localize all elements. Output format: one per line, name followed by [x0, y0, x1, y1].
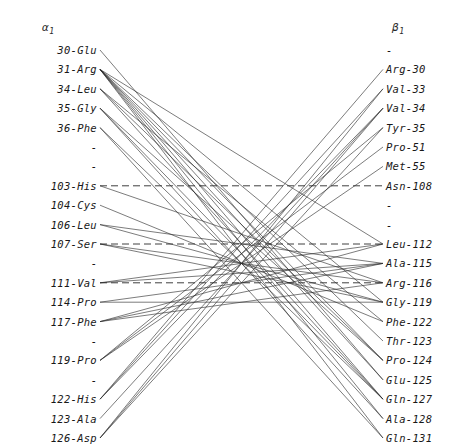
contact-line — [100, 89, 383, 399]
contact-line — [100, 205, 383, 321]
left-residue-label: 103-His — [0, 181, 97, 191]
contact-line — [100, 128, 383, 438]
left-residue-label: 36-Phe — [0, 123, 97, 133]
contact-line — [100, 128, 383, 400]
contact-line — [100, 263, 383, 302]
contact-line — [100, 89, 383, 438]
contact-line — [100, 69, 383, 341]
left-residue-label: 106-Leu — [0, 220, 97, 230]
right-column-header: β1 — [392, 21, 404, 36]
left-residue-label: 30-Glu — [0, 45, 97, 55]
left-residue-placeholder: - — [0, 336, 97, 346]
contact-line — [100, 263, 383, 282]
right-residue-label: Pro-51 — [386, 142, 426, 152]
contact-line — [100, 69, 383, 379]
contact-line — [100, 244, 383, 283]
right-residue-label: Arg-30 — [386, 64, 426, 74]
left-residue-label: 111-Val — [0, 278, 97, 288]
left-residue-label: 126-Asp — [0, 433, 97, 443]
right-residue-label: Gln-131 — [386, 433, 432, 443]
left-residue-label: 34-Leu — [0, 84, 97, 94]
left-residue-label: 122-His — [0, 394, 97, 404]
right-residue-label: Glu-125 — [386, 375, 432, 385]
left-residue-label: 117-Phe — [0, 317, 97, 327]
left-residue-label: 114-Pro — [0, 297, 97, 307]
contact-line — [100, 69, 383, 360]
right-residue-label: Val-34 — [386, 103, 426, 113]
contact-line — [100, 69, 383, 302]
left-residue-label: 35-Gly — [0, 103, 97, 113]
contact-line — [100, 69, 383, 438]
left-residue-placeholder: - — [0, 161, 97, 171]
contact-line — [100, 263, 383, 321]
contact-line — [100, 69, 383, 399]
contact-line — [100, 108, 383, 438]
contact-line — [100, 50, 383, 380]
right-residue-label: Tyr-35 — [386, 123, 426, 133]
right-residue-label: Pro-124 — [386, 355, 432, 365]
right-residue-label: Ala-128 — [386, 414, 432, 424]
contact-line — [100, 89, 383, 399]
contact-line — [100, 283, 383, 322]
right-residue-label: Met-55 — [386, 161, 426, 171]
left-header-subscript: 1 — [49, 27, 54, 36]
right-residue-label: Gln-127 — [386, 394, 432, 404]
contact-line — [100, 69, 383, 418]
contact-line — [100, 244, 383, 322]
right-residue-placeholder: - — [386, 220, 392, 230]
left-residue-label: 31-Arg — [0, 64, 97, 74]
contact-line — [100, 108, 383, 418]
contact-line — [100, 166, 383, 360]
left-residue-placeholder: - — [0, 258, 97, 268]
contact-line — [100, 89, 383, 361]
right-residue-label: Leu-112 — [386, 239, 432, 249]
left-residue-label: 107-Ser — [0, 239, 97, 249]
left-column-header: α1 — [42, 21, 54, 36]
left-residue-placeholder: - — [0, 375, 97, 385]
right-residue-label: Asn-108 — [386, 181, 432, 191]
contact-line — [100, 128, 383, 361]
contact-line — [100, 108, 383, 399]
left-residue-label: 123-Ala — [0, 414, 97, 424]
contact-line — [100, 225, 383, 264]
left-residue-label: 119-Pro — [0, 355, 97, 365]
contact-line — [100, 186, 383, 283]
contact-line — [100, 108, 383, 399]
contact-line — [100, 147, 383, 360]
contact-line — [100, 69, 383, 244]
contact-line — [100, 108, 383, 360]
contact-line — [100, 244, 383, 302]
right-residue-label: Gly-119 — [386, 297, 432, 307]
right-residue-label: Ala-115 — [386, 258, 432, 268]
contact-line — [100, 108, 383, 418]
right-residue-label: Phe-122 — [386, 317, 432, 327]
right-residue-label: Val-33 — [386, 84, 426, 94]
right-header-subscript: 1 — [399, 27, 404, 36]
contact-line — [100, 69, 383, 399]
contact-line — [100, 225, 383, 303]
right-residue-placeholder: - — [386, 200, 392, 210]
right-residue-label: Arg-116 — [386, 278, 432, 288]
contact-line — [100, 244, 383, 283]
contact-line — [100, 128, 383, 438]
right-residue-label: Thr-123 — [386, 336, 432, 346]
right-residue-placeholder: - — [386, 45, 392, 55]
contact-line — [100, 89, 383, 322]
left-residue-label: 104-Cys — [0, 200, 97, 210]
left-residue-placeholder: - — [0, 142, 97, 152]
